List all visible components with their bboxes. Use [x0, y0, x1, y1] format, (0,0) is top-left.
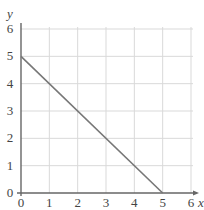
x-tick-label: 4: [131, 195, 138, 210]
y-tick-label: 3: [7, 103, 14, 118]
y-tick-label: 5: [7, 48, 14, 63]
grid-lines: [21, 27, 193, 193]
y-tick-label: 6: [7, 21, 14, 36]
x-tick-label: 6: [188, 195, 195, 210]
axes: [17, 23, 199, 196]
y-tick-label: 1: [7, 158, 14, 173]
x-axis-label: x: [197, 195, 204, 210]
x-tick-label: 0: [18, 195, 25, 210]
x-tick-label: 1: [46, 195, 53, 210]
tick-labels: 01234560123456xy: [5, 6, 204, 210]
line-chart: 01234560123456xy: [0, 0, 204, 210]
y-tick-label: 2: [7, 130, 14, 145]
x-tick-label: 3: [103, 195, 110, 210]
series-line: [21, 56, 163, 193]
y-axis-label: y: [5, 6, 13, 21]
y-tick-label: 4: [7, 76, 14, 91]
data-series: [21, 56, 163, 193]
x-tick-label: 5: [159, 195, 166, 210]
y-tick-label: 0: [7, 185, 14, 200]
x-tick-label: 2: [74, 195, 81, 210]
